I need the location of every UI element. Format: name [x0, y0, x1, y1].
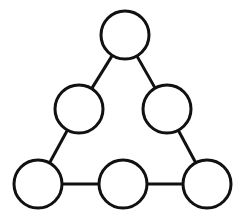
nodes-group — [14, 11, 231, 208]
triangle-diagram — [0, 0, 241, 224]
node-top — [101, 11, 149, 59]
node-bottom-mid — [99, 160, 147, 208]
diagram-svg — [0, 0, 241, 224]
edge-top-mid-right — [137, 56, 155, 88]
node-mid-right — [143, 85, 191, 133]
edge-mid-left-bottom-left — [50, 130, 68, 163]
node-mid-left — [55, 85, 103, 133]
edge-top-mid-left — [92, 55, 113, 88]
node-bottom-right — [183, 160, 231, 208]
node-bottom-left — [14, 160, 62, 208]
edge-mid-right-bottom-right — [178, 130, 195, 163]
